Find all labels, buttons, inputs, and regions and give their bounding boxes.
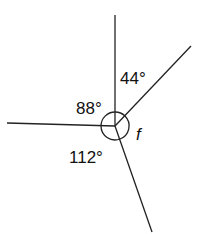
arc-88 (101, 112, 115, 126)
angle-label-112: 112° (69, 149, 103, 166)
arc-44 (115, 112, 125, 116)
angle-diagram: 44° 88° 112° f (0, 0, 199, 234)
ray-left (7, 123, 115, 126)
angle-label-44: 44° (120, 70, 146, 87)
angle-label-88: 88° (76, 100, 102, 117)
angle-label-f: f (136, 126, 141, 143)
ray-lower-right (115, 126, 152, 232)
